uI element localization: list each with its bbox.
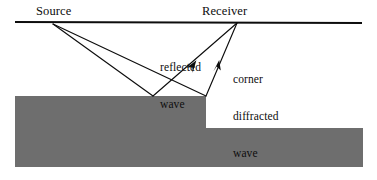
corner-diffracted-wave-label-line-2: diffracted xyxy=(233,110,278,122)
corner-diffracted-wave-label-line-3: wave xyxy=(233,147,278,159)
reflected-wave-label: reflected wave xyxy=(160,36,201,135)
corner-diffracted-wave-label: corner diffracted wave xyxy=(233,48,278,180)
seismic-diagram-figure: Source Receiver reflected wave corner di… xyxy=(0,0,377,180)
ray-paths xyxy=(53,23,237,96)
reflected-wave-label-line-1: reflected xyxy=(160,61,201,73)
ray-reflected-downgoing xyxy=(53,24,153,96)
reflected-wave-label-line-2: wave xyxy=(160,98,201,110)
surface-line xyxy=(15,22,362,23)
source-label: Source xyxy=(36,5,71,19)
lower-subsurface-block xyxy=(206,128,363,167)
corner-diffracted-wave-label-line-1: corner xyxy=(233,73,278,85)
receiver-label: Receiver xyxy=(202,5,247,19)
